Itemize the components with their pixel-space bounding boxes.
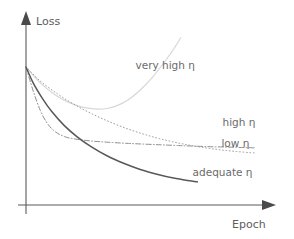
x-axis-arrowhead	[262, 200, 276, 210]
series-label-very-high-eta: very high η	[136, 59, 195, 71]
x-axis-label: Epoch	[232, 218, 266, 231]
y-axis-label: Loss	[36, 15, 60, 28]
curve-high-eta	[26, 67, 254, 148]
chart-canvas: Loss Epoch very high η high η low η adeq…	[0, 0, 294, 239]
y-axis-arrowhead	[21, 11, 31, 25]
series-label-low-eta: low η	[221, 137, 249, 149]
series-label-adequate-eta: adequate η	[193, 166, 253, 178]
series-label-high-eta: high η	[223, 116, 256, 128]
curve-very-high-eta	[26, 38, 181, 109]
axes-group	[18, 11, 276, 214]
curve-low-eta	[26, 67, 254, 153]
curve-adequate-eta	[26, 67, 197, 182]
learning-rate-loss-chart: Loss Epoch very high η high η low η adeq…	[0, 0, 294, 239]
